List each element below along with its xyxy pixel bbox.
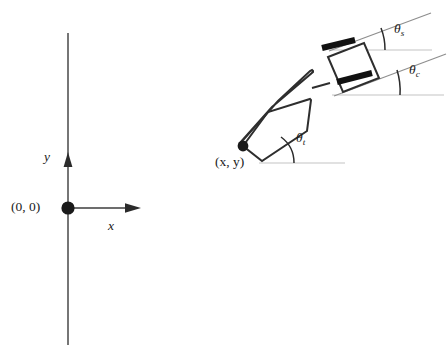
x-axis-label: x [108, 219, 114, 233]
hitch-point-label: (x, y) [215, 155, 244, 169]
theta-t-symbol: θ [296, 130, 303, 145]
origin-label: (0, 0) [11, 200, 40, 214]
hitch-link [312, 83, 330, 88]
y-axis-label: y [44, 150, 50, 164]
origin-dot [61, 201, 74, 214]
diagram-vector-graphics [0, 0, 448, 364]
theta-c-subscript: c [416, 69, 420, 79]
theta-t-subscript: t [303, 137, 306, 147]
theta-s-label: θs [394, 22, 404, 38]
theta-c-symbol: θ [409, 62, 416, 77]
trailer-group [239, 70, 313, 161]
diagram-canvas: (0, 0) x y (x, y) θt θc θs [0, 0, 448, 364]
theta-c-label: θc [409, 63, 420, 79]
x-axis-arrowhead [125, 203, 141, 213]
theta-s-subscript: s [401, 28, 405, 38]
hitch-point-dot [238, 141, 249, 152]
theta-t-label: θt [296, 131, 305, 147]
theta-s-symbol: θ [394, 21, 401, 36]
theta-c-arc [397, 70, 400, 95]
front-steering-wheel [322, 40, 355, 48]
hitch-link-group [312, 83, 330, 88]
y-axis-arrowhead [64, 152, 73, 167]
coordinate-frame [61, 33, 141, 345]
